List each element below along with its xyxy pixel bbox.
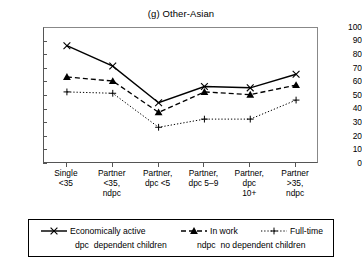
legend-series-row: Economically activeIn workFull-time bbox=[29, 224, 335, 238]
data-point-triangle bbox=[292, 81, 300, 88]
data-point-plus bbox=[271, 228, 278, 235]
y-tick-label: 60 bbox=[340, 77, 362, 85]
legend-label: In work bbox=[210, 227, 238, 236]
legend-item-economically-active: Economically active bbox=[41, 224, 145, 238]
series-line bbox=[67, 46, 296, 103]
y-tick-label: 100 bbox=[340, 23, 362, 31]
series-0 bbox=[64, 42, 300, 106]
chart-title: (g) Other-Asian bbox=[0, 8, 362, 19]
x-tick-mark bbox=[112, 163, 113, 167]
x-tick-label: Partner, dpc <5 bbox=[132, 168, 184, 188]
data-point-plus bbox=[247, 116, 254, 123]
data-point-x bbox=[64, 42, 71, 49]
x-tick-label: Partner >35, ndpc bbox=[269, 168, 321, 199]
legend-abbrev-row: dpc dependent childrenndpc no dependent … bbox=[29, 241, 335, 255]
data-point-triangle bbox=[155, 108, 163, 115]
data-point-plus bbox=[201, 116, 208, 123]
x-tick-mark bbox=[203, 163, 204, 167]
legend-label: Full-time bbox=[290, 227, 323, 236]
x-tick-mark bbox=[295, 163, 296, 167]
x-tick-label: Partner, dpc 10+ bbox=[223, 168, 275, 199]
chart-figure: (g) Other-Asian 0102030405060708090100 S… bbox=[0, 0, 362, 265]
y-tick-label: 0 bbox=[340, 159, 362, 167]
y-tick-label: 10 bbox=[340, 145, 362, 153]
legend-label: Economically active bbox=[70, 227, 145, 236]
y-tick-label: 70 bbox=[340, 64, 362, 72]
series-line bbox=[67, 92, 296, 127]
x-tick-mark bbox=[249, 163, 250, 167]
y-tick-label: 80 bbox=[340, 50, 362, 58]
y-tick-label: 30 bbox=[340, 118, 362, 126]
legend-item-in-work: In work bbox=[181, 224, 238, 238]
data-point-x bbox=[155, 99, 162, 106]
y-tick-label: 40 bbox=[340, 104, 362, 112]
legend-glyph-plus bbox=[261, 225, 287, 237]
legend-abbrev-dpc: dpc dependent children bbox=[75, 241, 167, 250]
x-tick-label: Single <35 bbox=[40, 168, 92, 188]
chart-legend: Economically activeIn workFull-time dpc … bbox=[28, 219, 334, 257]
x-tick-label: Partner <35, ndpc bbox=[86, 168, 138, 199]
data-point-plus bbox=[293, 97, 300, 104]
series-layer bbox=[44, 28, 319, 164]
y-tick-label: 90 bbox=[340, 36, 362, 44]
y-tick-label: 50 bbox=[340, 91, 362, 99]
legend-item-full-time: Full-time bbox=[261, 224, 323, 238]
x-tick-mark bbox=[66, 163, 67, 167]
y-tick-label: 20 bbox=[340, 132, 362, 140]
x-tick-label: Partner, dpc 5–9 bbox=[178, 168, 230, 188]
plot-area bbox=[43, 27, 318, 163]
legend-glyph-triangle bbox=[181, 225, 207, 237]
x-tick-mark bbox=[158, 163, 159, 167]
legend-glyph-x bbox=[41, 225, 67, 237]
data-point-plus bbox=[64, 89, 71, 96]
legend-abbrev-ndpc: ndpc no dependent children bbox=[197, 241, 305, 250]
data-point-x bbox=[109, 63, 116, 70]
data-point-triangle bbox=[63, 73, 71, 80]
